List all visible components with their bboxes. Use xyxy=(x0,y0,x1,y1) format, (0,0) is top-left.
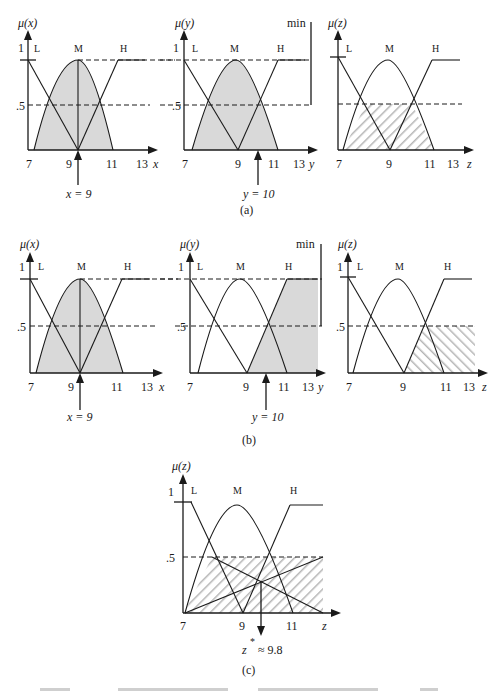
a-z-tick-7: 7 xyxy=(336,157,342,171)
b-x-tick-7: 7 xyxy=(28,380,34,394)
b-z-set-l: L xyxy=(357,261,363,272)
input-arrow-icon xyxy=(76,373,84,383)
a-y-tick-9: 9 xyxy=(235,157,241,171)
a-x-set-m: M xyxy=(74,43,83,54)
b-z-set-h: H xyxy=(444,261,451,272)
c-output-var: z xyxy=(241,643,247,657)
b-z-set-m: M xyxy=(395,261,404,272)
y-axis-arrow-icon xyxy=(344,252,352,262)
y-axis-arrow-icon xyxy=(186,252,194,262)
a-x-ytick-1: 1 xyxy=(18,41,24,55)
c-z-xlabel: z xyxy=(321,619,327,633)
c-z-set-l: L xyxy=(191,485,197,496)
caption-a: (a) xyxy=(240,203,253,217)
input-arrow-icon xyxy=(74,150,82,160)
panel-a-x-chart xyxy=(20,30,175,185)
a-z-ylabel: μ(z) xyxy=(327,16,347,30)
y-axis-right-arrow-icon xyxy=(316,369,326,377)
a-x-ylabel: μ(x) xyxy=(17,16,37,30)
a-y-input: y = 10 xyxy=(242,187,274,201)
panel-b-x-chart xyxy=(20,252,178,410)
b-z-tick-9: 9 xyxy=(400,380,406,394)
b-y-tick-7: 7 xyxy=(187,380,193,394)
b-y-set-h: H xyxy=(285,261,292,272)
x-axis-arrow-icon xyxy=(464,146,474,154)
b-x-xlabel: x xyxy=(158,380,165,394)
caption-c: (c) xyxy=(242,663,255,677)
b-z-ytick-1: 1 xyxy=(337,260,343,274)
x-axis-arrow-icon xyxy=(478,369,488,377)
a-z-set-h: H xyxy=(432,43,439,54)
a-x-tick-7: 7 xyxy=(26,157,32,171)
b-x-ytick-half: .5 xyxy=(17,320,26,334)
y-axis-arrow-icon xyxy=(26,252,34,262)
b-x-tick-13: 13 xyxy=(141,380,153,394)
a-x-tick-9: 9 xyxy=(66,157,72,171)
a-z-xlabel: z xyxy=(466,157,472,171)
b-x-set-h: H xyxy=(124,261,131,272)
a-y-operator: min xyxy=(287,16,306,30)
b-z-xlabel: z xyxy=(481,380,487,394)
fuzzy-inference-figure: μ(x) L M H 1 .5 7 9 11 13 x x = 9 μ(y) m… xyxy=(0,0,500,695)
panel-c-z-chart xyxy=(174,474,341,636)
b-z-ylabel: μ(z) xyxy=(337,237,357,251)
y-axis-arrow-icon xyxy=(180,30,188,40)
c-z-ylabel: μ(z) xyxy=(171,459,191,473)
c-output-sup: * xyxy=(250,636,255,647)
c-z-ytick-1: 1 xyxy=(168,485,174,499)
b-y-tick-9: 9 xyxy=(243,380,249,394)
b-z-tick-7: 7 xyxy=(346,380,352,394)
b-y-operator: min xyxy=(296,237,315,251)
c-z-tick-9: 9 xyxy=(239,619,245,633)
b-y-set-m: M xyxy=(236,261,245,272)
input-arrow-icon xyxy=(262,373,270,383)
c-z-tick-11: 11 xyxy=(286,619,298,633)
a-z-set-m: M xyxy=(385,43,394,54)
c-z-tick-7: 7 xyxy=(180,619,186,633)
c-output-value: ≈ 9.8 xyxy=(258,643,283,657)
y-axis-arrow-icon xyxy=(179,474,187,484)
c-z-set-m: M xyxy=(233,485,242,496)
a-x-ytick-half: .5 xyxy=(16,99,25,113)
a-y-tick-7: 7 xyxy=(182,157,188,171)
a-y-tick-13: 13 xyxy=(293,157,305,171)
b-x-tick-11: 11 xyxy=(111,380,123,394)
y-axis-arrow-icon xyxy=(24,30,32,40)
a-z-tick-11: 11 xyxy=(424,157,436,171)
a-x-set-l: L xyxy=(34,43,40,54)
a-y-set-h: H xyxy=(277,43,284,54)
b-x-tick-9: 9 xyxy=(68,380,74,394)
cutoff-caption-line xyxy=(40,688,438,691)
y-axis-arrow-icon xyxy=(334,30,342,40)
b-y-ylabel: μ(y) xyxy=(179,237,199,251)
x-axis-arrow-icon xyxy=(153,369,163,377)
b-x-set-m: M xyxy=(77,261,86,272)
a-z-set-l: L xyxy=(346,43,352,54)
b-x-set-l: L xyxy=(38,261,44,272)
b-y-ytick-1: 1 xyxy=(178,260,184,274)
b-y-tick-11: 11 xyxy=(278,380,290,394)
a-z-tick-13: 13 xyxy=(447,157,459,171)
c-z-set-h: H xyxy=(290,485,297,496)
a-x-set-h: H xyxy=(120,43,127,54)
b-y-set-l: L xyxy=(197,261,203,272)
a-y-ytick-half: .5 xyxy=(172,99,181,113)
b-x-ylabel: μ(x) xyxy=(19,237,39,251)
b-y-input: y = 10 xyxy=(251,410,283,424)
a-x-tick-11: 11 xyxy=(106,157,118,171)
c-z-ytick-half: .5 xyxy=(166,551,175,565)
b-z-tick-11: 11 xyxy=(440,380,452,394)
a-y-ylabel: μ(y) xyxy=(174,16,194,30)
b-x-input: x = 9 xyxy=(66,410,92,424)
a-y-set-l: L xyxy=(192,43,198,54)
b-z-ytick-half: .5 xyxy=(336,320,345,334)
a-y-set-m: M xyxy=(230,43,239,54)
a-z-tick-9: 9 xyxy=(386,157,392,171)
b-y-tick-13: 13 xyxy=(302,380,314,394)
x-axis-arrow-icon xyxy=(148,146,158,154)
y-axis-right-arrow-icon xyxy=(308,146,318,154)
b-y-ytick-half: .5 xyxy=(177,320,186,334)
b-x-ytick-1: 1 xyxy=(19,260,25,274)
a-y-xlabel: y xyxy=(308,157,315,171)
b-z-tick-13: 13 xyxy=(463,380,475,394)
